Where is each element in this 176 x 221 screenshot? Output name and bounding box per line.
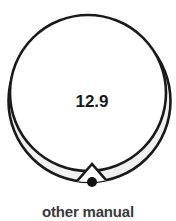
center-value-text: 12.9 (75, 92, 108, 111)
ring-diagram-svg: 12.9 other manual (0, 0, 176, 221)
proportional-ring-figure: 12.9 other manual (0, 0, 176, 221)
marker-dot-icon (87, 177, 97, 187)
category-label-text: other manual (42, 203, 134, 220)
